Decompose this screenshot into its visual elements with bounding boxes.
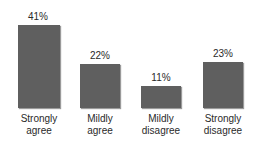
bar-strongly-disagree — [203, 62, 243, 108]
category-line: disagree — [193, 125, 253, 137]
category-line: Strongly — [193, 113, 253, 125]
category-label-mildly-agree: Mildly agree — [70, 113, 130, 137]
category-label-strongly-agree: Strongly agree — [9, 113, 69, 137]
category-line: Mildly — [70, 113, 130, 125]
value-label-mildly-agree: 22% — [75, 50, 125, 61]
value-label-mildly-disagree: 11% — [136, 72, 186, 83]
category-line: agree — [9, 125, 69, 137]
bar-mildly-agree — [80, 64, 120, 108]
category-line: Strongly — [9, 113, 69, 125]
value-label-strongly-agree: 41% — [13, 11, 63, 22]
category-line: Mildly — [131, 113, 191, 125]
bar-mildly-disagree — [141, 86, 181, 108]
category-line: disagree — [131, 125, 191, 137]
category-label-mildly-disagree: Mildly disagree — [131, 113, 191, 137]
category-label-strongly-disagree: Strongly disagree — [193, 113, 253, 137]
bar-strongly-agree — [18, 25, 60, 108]
value-label-strongly-disagree: 23% — [198, 48, 248, 59]
category-line: agree — [70, 125, 130, 137]
